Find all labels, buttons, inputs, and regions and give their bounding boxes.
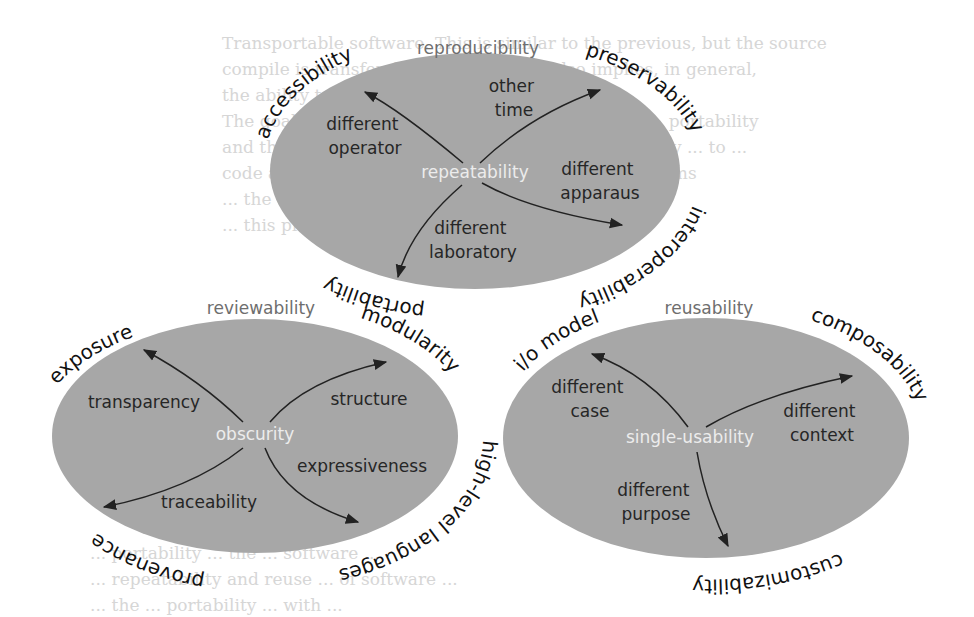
- branch-label: structure: [330, 389, 407, 409]
- repeatability-center-label: repeatability: [421, 162, 529, 182]
- repeatability-cluster: reproducibility repeatability different …: [250, 37, 711, 324]
- single-usability-cluster: reusability single-usability different c…: [503, 298, 934, 598]
- diagram-canvas: reproducibility repeatability different …: [0, 0, 974, 617]
- reviewability-title: reviewability: [207, 298, 315, 318]
- branch-label: expressiveness: [297, 456, 427, 476]
- reusability-title: reusability: [665, 298, 754, 318]
- branch-label: traceability: [161, 492, 257, 512]
- obscurity-center-label: obscurity: [216, 424, 295, 444]
- obscurity-cluster: reviewability obscurity transparency str…: [43, 298, 502, 595]
- single-usability-center-label: single-usability: [626, 427, 754, 447]
- reproducibility-title: reproducibility: [417, 38, 539, 58]
- branch-label: transparency: [88, 392, 200, 412]
